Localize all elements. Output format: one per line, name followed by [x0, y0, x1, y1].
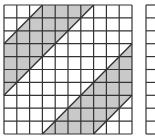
partial-grid: [146, 5, 155, 134]
grid-diagram: [0, 0, 155, 139]
